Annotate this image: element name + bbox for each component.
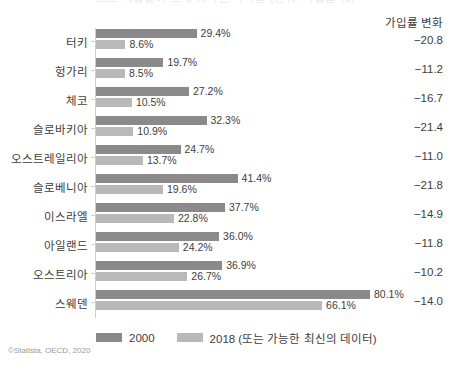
axis-tick <box>91 41 95 42</box>
bar-rect <box>96 214 174 223</box>
bar-2000: 80.1% <box>96 290 404 299</box>
bar-value-label: 24.2% <box>179 243 213 252</box>
bar-rect <box>96 87 189 96</box>
bar-value-label: 66.1% <box>322 301 356 310</box>
bar-rect <box>96 127 133 136</box>
bar-2018: 10.5% <box>96 98 166 107</box>
bar-value-label: 8.5% <box>125 69 153 78</box>
bar-rect <box>96 145 181 154</box>
chart-row: 헝가리19.7%8.5%−11.2 <box>0 57 459 86</box>
delta-value: −16.7 <box>414 92 443 104</box>
bar-value-label: 36.0% <box>219 232 253 241</box>
bar-rect <box>96 156 143 165</box>
bar-value-label: 27.2% <box>189 87 223 96</box>
bar-group: 19.7%8.5% <box>96 57 459 86</box>
bar-2018: 66.1% <box>96 301 356 310</box>
axis-tick <box>91 302 95 303</box>
bar-2018: 26.7% <box>96 272 221 281</box>
chart-row: 터키29.4%8.6%−20.8 <box>0 28 459 57</box>
bar-group: 36.0%24.2% <box>96 231 459 260</box>
delta-value: −10.2 <box>414 266 443 278</box>
bar-2000: 37.7% <box>96 203 259 212</box>
bar-2000: 36.0% <box>96 232 253 241</box>
chart-plot-area: 터키29.4%8.6%−20.8헝가리19.7%8.5%−11.2체코27.2%… <box>0 28 459 320</box>
bar-rect <box>96 58 163 67</box>
chart-title-clipped: 노조 가입률이 크게 하락한 나라들 (단위: 가입률 %) <box>0 0 459 11</box>
bar-rect <box>96 69 125 78</box>
bar-2000: 24.7% <box>96 145 214 154</box>
delta-value: −11.0 <box>415 150 443 162</box>
bar-value-label: 24.7% <box>181 145 215 154</box>
bar-rect <box>96 185 163 194</box>
delta-value: −14.0 <box>414 295 443 307</box>
bar-value-label: 8.6% <box>125 40 153 49</box>
delta-value: −21.4 <box>414 121 443 133</box>
chart-row: 스웨덴80.1%66.1%−14.0 <box>0 289 459 318</box>
bar-2018: 8.6% <box>96 40 153 49</box>
bar-group: 37.7%22.8% <box>96 202 459 231</box>
bar-2000: 19.7% <box>96 58 197 67</box>
delta-value: −11.8 <box>415 237 443 249</box>
bar-value-label: 29.4% <box>197 29 231 38</box>
bar-2000: 29.4% <box>96 29 230 38</box>
legend-items: 20002018 (또는 가능한 최신의 데이터) <box>96 328 399 346</box>
bar-rect <box>96 290 370 299</box>
chart-row: 아일랜드36.0%24.2%−11.8 <box>0 231 459 260</box>
axis-tick <box>91 128 95 129</box>
chart-row: 슬로베니아41.4%19.6%−21.8 <box>0 173 459 202</box>
bar-value-label: 26.7% <box>187 272 221 281</box>
bar-rect <box>96 40 125 49</box>
axis-tick <box>91 186 95 187</box>
delta-value: −21.8 <box>414 179 443 191</box>
axis-tick <box>91 157 95 158</box>
bar-2018: 22.8% <box>96 214 208 223</box>
bar-value-label: 10.5% <box>132 98 166 107</box>
category-label: 스웨덴 <box>0 295 88 311</box>
source-credit: ©Statista, OECD, 2020 <box>8 346 90 355</box>
chart-row: 이스라엘37.7%22.8%−14.9 <box>0 202 459 231</box>
legend-label: 2018 (또는 가능한 최신의 데이터) <box>210 330 377 346</box>
bar-2018: 10.9% <box>96 127 167 136</box>
legend-item: 2018 (또는 가능한 최신의 데이터) <box>177 328 377 346</box>
bar-rect <box>96 232 219 241</box>
category-label: 오스트레일리아 <box>0 150 88 166</box>
chart-title-text: 노조 가입률이 크게 하락한 나라들 (단위: 가입률 %) <box>96 0 354 5</box>
category-label: 이스라엘 <box>0 208 88 224</box>
bar-value-label: 41.4% <box>238 174 272 183</box>
bar-group: 27.2%10.5% <box>96 86 459 115</box>
bar-2000: 36.9% <box>96 261 256 270</box>
bar-2000: 41.4% <box>96 174 271 183</box>
legend-label: 2000 <box>129 332 155 344</box>
bar-value-label: 10.9% <box>133 127 167 136</box>
bar-group: 32.3%10.9% <box>96 115 459 144</box>
category-label: 체코 <box>0 92 88 108</box>
category-label: 아일랜드 <box>0 237 88 253</box>
bar-rect <box>96 272 187 281</box>
delta-value: −14.9 <box>414 208 443 220</box>
bar-group: 41.4%19.6% <box>96 173 459 202</box>
bar-rect <box>96 174 238 183</box>
category-label: 슬로바키아 <box>0 121 88 137</box>
bar-2000: 27.2% <box>96 87 223 96</box>
delta-value: −11.2 <box>415 63 443 75</box>
bar-value-label: 32.3% <box>207 116 241 125</box>
chart-row: 슬로바키아32.3%10.9%−21.4 <box>0 115 459 144</box>
legend-swatch <box>96 333 122 342</box>
axis-tick <box>91 273 95 274</box>
chart-legend: 20002018 (또는 가능한 최신의 데이터) <box>0 328 459 344</box>
bar-2018: 8.5% <box>96 69 153 78</box>
bar-value-label: 19.7% <box>163 58 197 67</box>
bar-rect <box>96 203 225 212</box>
bar-rect <box>96 29 197 38</box>
chart-row: 오스트리아36.9%26.7%−10.2 <box>0 260 459 289</box>
bar-2018: 24.2% <box>96 243 213 252</box>
bar-rect <box>96 261 222 270</box>
category-label: 헝가리 <box>0 63 88 79</box>
bar-value-label: 37.7% <box>225 203 259 212</box>
bar-rect <box>96 243 179 252</box>
legend-swatch <box>177 333 203 342</box>
bar-2018: 13.7% <box>96 156 177 165</box>
bar-value-label: 22.8% <box>174 214 208 223</box>
bar-rect <box>96 98 132 107</box>
bar-value-label: 80.1% <box>370 290 404 299</box>
